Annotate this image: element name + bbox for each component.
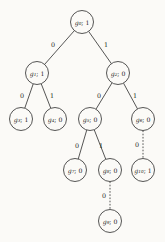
node-label-g2: g2; 0 xyxy=(111,69,126,77)
tree-node-g2[interactable]: g2; 0 xyxy=(107,62,130,85)
node-value-g1: 1 xyxy=(40,69,44,76)
node-value-g0: 1 xyxy=(85,18,89,25)
edge-label-g0-g2: 1 xyxy=(104,41,108,49)
tree-edge-g0-g1 xyxy=(45,31,75,65)
node-value-g9: 0 xyxy=(113,217,117,224)
node-label-g1: g1; 1 xyxy=(30,69,45,77)
node-value-g4: 0 xyxy=(58,115,62,122)
node-value-g2: 0 xyxy=(121,69,125,76)
tree-edge-g5-g7 xyxy=(78,130,87,159)
tree-node-g1[interactable]: g1; 1 xyxy=(26,62,49,85)
tree-node-g3[interactable]: g3; 1 xyxy=(10,108,33,131)
edge-label-g1-g4: 1 xyxy=(50,92,54,100)
node-label-g6: g6; 0 xyxy=(136,115,151,123)
node-value-g10: 1 xyxy=(148,166,152,173)
edge-label-g5-g8: 1 xyxy=(99,142,103,150)
node-label-g8: g8; 0 xyxy=(103,166,118,174)
node-value-g3: 1 xyxy=(24,115,28,122)
edge-label-g2-g6: 1 xyxy=(133,92,137,100)
node-value-g6: 0 xyxy=(146,115,150,122)
node-label-g7: g7; 0 xyxy=(68,166,83,174)
tree-node-g10[interactable]: g10; 1 xyxy=(132,159,155,182)
node-label-g0: g0; 1 xyxy=(75,18,90,26)
node-label-g4: g4; 0 xyxy=(48,115,63,123)
tree-edge-g1-g3 xyxy=(25,84,33,108)
tree-node-g4[interactable]: g4; 0 xyxy=(44,108,67,131)
tree-node-g7[interactable]: g7; 0 xyxy=(64,159,87,182)
edge-label-g1-g3: 0 xyxy=(20,92,24,100)
node-value-g8: 0 xyxy=(113,166,117,173)
node-value-g5: 0 xyxy=(93,115,97,122)
tree-node-g0[interactable]: g0; 1 xyxy=(71,11,94,34)
tree-node-g8[interactable]: g8; 0 xyxy=(99,159,122,182)
edge-label-g5-g7: 0 xyxy=(75,142,79,150)
tree-node-g5[interactable]: g5; 0 xyxy=(79,108,102,131)
edge-label-g6-g10: 0 xyxy=(135,141,139,149)
decision-tree-figure: g0; 1g1; 1g2; 0g3; 1g4; 0g5; 0g6; 0g7; 0… xyxy=(0,0,165,242)
edge-label-g8-g9: 0 xyxy=(102,192,106,200)
node-label-g5: g5; 0 xyxy=(83,115,98,123)
node-label-g9: g9; 0 xyxy=(103,217,118,225)
tree-node-g6[interactable]: g6; 0 xyxy=(132,108,155,131)
tree-node-g9[interactable]: g9; 0 xyxy=(99,210,122,233)
node-value-g7: 0 xyxy=(78,166,82,173)
edge-label-g2-g5: 0 xyxy=(97,92,101,100)
node-label-g3: g3; 1 xyxy=(14,115,29,123)
node-label-g10: g10; 1 xyxy=(134,166,151,174)
nodes-layer: g0; 1g1; 1g2; 0g3; 1g4; 0g5; 0g6; 0g7; 0… xyxy=(10,11,155,233)
edge-label-g0-g1: 0 xyxy=(51,41,55,49)
tree-svg: g0; 1g1; 1g2; 0g3; 1g4; 0g5; 0g6; 0g7; 0… xyxy=(0,0,165,242)
